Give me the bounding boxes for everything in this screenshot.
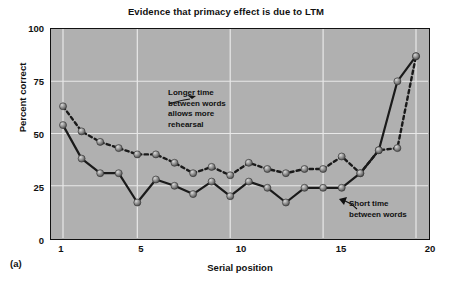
data-point [264,184,271,191]
data-point [171,182,178,189]
data-point [78,155,85,162]
y-tick-0: 0 [0,235,44,246]
data-point [190,191,197,198]
data-point [357,170,364,177]
data-point [97,138,104,145]
panel-label: (a) [10,258,22,269]
data-point [78,128,85,135]
series-2 [60,53,420,206]
data-point [394,78,401,85]
data-point [320,184,327,191]
data-point [227,172,234,179]
x-tick-1: 1 [41,243,81,254]
chart-title: Evidence that primacy effect is due to L… [0,6,452,17]
data-point [394,145,401,152]
series-1 [60,53,420,179]
x-tick-20: 20 [410,243,450,254]
data-point [245,159,252,166]
data-point [301,184,308,191]
x-tick-10: 10 [221,243,261,254]
series-line-1 [63,56,416,175]
x-axis-label: Serial position [50,262,430,273]
series-line-2 [63,56,416,202]
data-point [301,166,308,173]
data-point [152,151,159,158]
x-tick-5: 5 [121,243,161,254]
data-point [413,53,420,60]
series-layer [60,53,420,206]
data-point [208,163,215,170]
data-point [227,193,234,200]
annotation-short-time: Short time between words [349,199,407,220]
data-point [134,151,141,158]
data-point [115,170,122,177]
data-point [282,199,289,206]
data-point [208,178,215,185]
x-tick-15: 15 [321,243,361,254]
data-point [282,170,289,177]
data-point [264,166,271,173]
data-point [134,199,141,206]
figure-panel: Evidence that primacy effect is due to L… [0,0,452,288]
data-point [245,178,252,185]
data-point [152,176,159,183]
data-point [190,170,197,177]
data-point [338,184,345,191]
y-tick-50: 50 [0,129,44,140]
data-point [320,166,327,173]
y-tick-25: 25 [0,182,44,193]
data-point [338,153,345,160]
data-point [171,159,178,166]
data-point [115,145,122,152]
data-point [60,122,67,129]
y-tick-75: 75 [0,76,44,87]
data-point [60,103,67,110]
data-point [375,147,382,154]
data-point [97,170,104,177]
annotation-longer-time: Longer time between words allows more re… [168,88,226,130]
y-tick-100: 100 [0,23,44,34]
